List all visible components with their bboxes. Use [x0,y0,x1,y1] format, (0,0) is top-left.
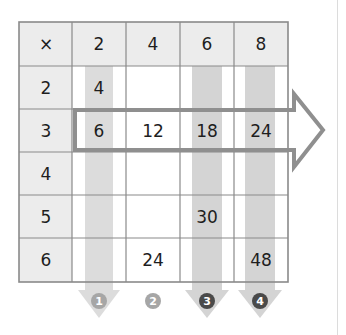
table-cell [180,238,234,281]
table-cell: 4 [72,66,126,109]
table-cell: 30 [180,195,234,238]
step-marker-label: 3 [199,293,215,309]
table-cell [180,66,234,109]
row-header: 5 [19,195,73,238]
row-header: 2 [19,66,73,109]
row-header: 3 [19,109,73,152]
table-cell [72,152,126,195]
table-cell: 24 [234,109,288,152]
table-cell [126,66,180,109]
table-cell [180,152,234,195]
row-header: 6 [19,238,73,281]
column-header: 2 [72,22,126,65]
column-header: 4 [126,22,180,65]
table-cell [234,195,288,238]
table-cell [234,152,288,195]
row-header: 4 [19,152,73,195]
table-cell [126,152,180,195]
table-cell: 24 [126,238,180,281]
table-cell: 12 [126,109,180,152]
table-cell [72,195,126,238]
table-cell: 18 [180,109,234,152]
table-cell: 6 [72,109,126,152]
operator-cell: × [19,22,73,65]
table-cell [72,238,126,281]
step-marker-label: 1 [91,293,107,309]
column-header: 6 [180,22,234,65]
column-header: 8 [234,22,288,65]
step-marker-label: 2 [145,293,161,309]
table-cell: 48 [234,238,288,281]
step-marker-label: 4 [252,293,268,309]
table-cell [234,66,288,109]
table-cell [126,195,180,238]
